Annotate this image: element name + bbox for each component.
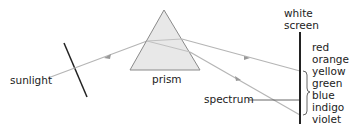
slit	[64, 43, 87, 97]
color-label-blue: blue	[312, 89, 335, 101]
color-label-indigo: indigo	[312, 101, 344, 113]
color-label-orange: orange	[312, 53, 349, 65]
incoming-ray	[48, 41, 147, 78]
outgoing-ray-violet	[190, 52, 300, 115]
spectrum-label: spectrum	[204, 93, 254, 105]
screen-label-line1: white	[284, 7, 313, 19]
outgoing-ray-red	[182, 39, 300, 71]
prism-label: prism	[152, 73, 182, 85]
prism-diagram: sunlight prism spectrum white screen red…	[0, 0, 353, 132]
color-label-yellow: yellow	[312, 65, 346, 77]
color-label-red: red	[312, 41, 329, 53]
color-label-green: green	[312, 77, 342, 89]
screen-label-line2: screen	[284, 19, 319, 31]
color-label-violet: violet	[312, 113, 341, 125]
sunlight-label: sunlight	[10, 74, 52, 86]
spectrum-brace	[303, 71, 310, 115]
